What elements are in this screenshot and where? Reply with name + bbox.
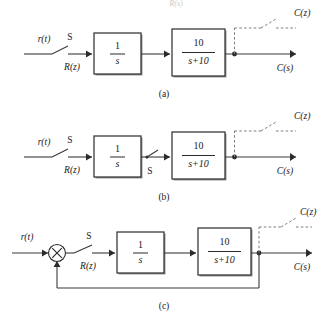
panel-a: r(t) S R(z) 1 s 10 s+10 C(s) (24, 8, 310, 100)
panel-b-output-label: C(s) (277, 166, 293, 177)
panel-a-block1-denominator: s (116, 55, 120, 66)
panel-a-sampled-label: R(z) (63, 62, 80, 73)
panel-c-arrowhead-sum (42, 250, 48, 257)
panel-a-arrowhead-block2 (164, 51, 170, 58)
panel-c-output-arrowhead (306, 249, 312, 257)
panel-a-block2-numerator: 10 (194, 37, 204, 48)
panel-c-sampled-label: R(z) (79, 261, 96, 272)
panel-c-switch-blade[interactable] (74, 245, 92, 253)
panel-b-block2-numerator: 10 (194, 140, 204, 151)
panel-b-arrowhead-block1 (86, 154, 92, 161)
panel-a-sampled-output-label: C(z) (294, 8, 310, 19)
panel-a-block1-numerator: 1 (115, 40, 120, 51)
panel-a-switch-label: S (67, 32, 72, 42)
panel-b-arrowhead-block2 (164, 154, 170, 161)
panel-c-feedback-arrowhead (54, 261, 61, 267)
panel-a-block2-denominator: s+10 (188, 55, 209, 66)
panel-b-block2-denominator: s+10 (188, 158, 209, 169)
panel-a-dashed-switch-blade[interactable] (261, 19, 276, 28)
panel-c-block2-denominator: s+10 (214, 254, 235, 265)
panel-a-arrowhead-block1 (86, 51, 92, 58)
panel-c-block1-numerator: 1 (138, 239, 143, 250)
panel-c-caption: (c) (159, 301, 170, 312)
panel-c-output-label: C(s) (294, 262, 310, 273)
panel-b-switch-label: S (67, 135, 72, 145)
block-diagram-figure: R(s) r(t) S R(z) 1 s (0, 0, 329, 319)
panel-b-sampled-label: R(z) (63, 165, 80, 176)
panel-a-caption: (a) (159, 89, 170, 100)
panel-b-mid-switch-blade[interactable] (147, 150, 158, 157)
diagram-canvas: R(s) r(t) S R(z) 1 s (0, 0, 329, 319)
panel-b-block1-denominator: s (116, 158, 120, 169)
panel-b-switch-blade[interactable] (52, 149, 68, 157)
panel-c: r(t) S R(z) 1 s 10 s+10 (12, 207, 316, 312)
panel-a-input-label: r(t) (38, 34, 51, 45)
panel-c-arrowhead-block1 (109, 250, 115, 257)
panel-c-block2-numerator: 10 (220, 236, 230, 247)
panel-c-sampled-output-label: C(z) (300, 207, 316, 218)
panel-b-input-label: r(t) (38, 137, 51, 148)
panel-c-block1-denominator: s (139, 254, 143, 265)
panel-b-sampled-output-label: C(z) (294, 111, 310, 122)
panel-c-arrowhead-block2 (190, 250, 196, 257)
panel-c-input-label: r(t) (21, 232, 34, 243)
panel-b-block1-numerator: 1 (115, 143, 120, 154)
panel-b-caption: (b) (158, 192, 169, 203)
top-partial-text: R(s) (168, 0, 183, 8)
panel-a-output-arrowhead (290, 50, 296, 58)
panel-c-switch-label: S (86, 231, 91, 241)
panel-a-switch-blade[interactable] (52, 46, 68, 54)
panel-c-dashed-switch-blade[interactable] (281, 218, 296, 227)
panel-b-dashed-switch-blade[interactable] (261, 122, 276, 131)
panel-b-output-arrowhead (290, 153, 296, 161)
panel-b-mid-switch-label: S (147, 166, 152, 176)
panel-b: r(t) S R(z) 1 s S 10 s+10 C(s) (24, 111, 310, 203)
panel-a-output-label: C(s) (277, 63, 293, 74)
